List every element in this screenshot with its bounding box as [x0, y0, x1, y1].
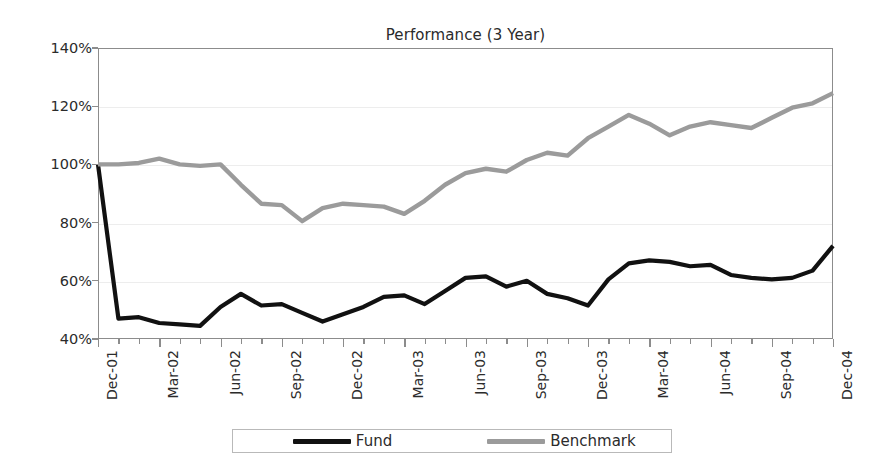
x-tick-minor [690, 339, 691, 344]
x-tick-minor [363, 339, 364, 344]
y-tick-label: 140% [28, 40, 92, 56]
x-tick-minor [261, 339, 262, 344]
gridline-80 [99, 224, 832, 225]
y-tick-label: 60% [28, 273, 92, 289]
x-tick-major [649, 339, 650, 347]
x-tick-major [833, 339, 834, 347]
plot-area [98, 48, 833, 339]
y-tick-mark [92, 222, 98, 223]
x-tick-minor [506, 339, 507, 344]
gridline-100 [99, 165, 832, 166]
y-tick-mark [92, 338, 98, 339]
x-tick-major [282, 339, 283, 347]
x-tick-major [772, 339, 773, 347]
y-tick-label: 80% [28, 215, 92, 231]
legend-entry-benchmark: Benchmark [452, 432, 671, 450]
y-tick-mark [92, 47, 98, 48]
x-tick-label: Jun-03 [472, 350, 488, 395]
x-tick-minor [139, 339, 140, 344]
y-axis: 40%60%80%100%120%140% [20, 0, 92, 473]
x-tick-minor [445, 339, 446, 344]
x-tick-label: Sep-04 [778, 350, 794, 399]
x-tick-label: Jun-02 [227, 350, 243, 395]
x-tick-minor [118, 339, 119, 344]
x-tick-minor [425, 339, 426, 344]
y-tick-mark [92, 280, 98, 281]
x-tick-minor [384, 339, 385, 344]
x-tick-major [159, 339, 160, 347]
x-tick-minor [670, 339, 671, 344]
x-tick-major [527, 339, 528, 347]
x-tick-minor [792, 339, 793, 344]
x-tick-label: Mar-03 [410, 350, 426, 398]
x-tick-major [588, 339, 589, 347]
x-tick-label: Sep-03 [533, 350, 549, 399]
x-tick-label: Dec-01 [104, 350, 120, 400]
x-tick-minor [302, 339, 303, 344]
x-tick-minor [323, 339, 324, 344]
y-tick-label: 100% [28, 156, 92, 172]
legend-swatch-fund [293, 439, 351, 444]
gridline-60 [99, 282, 832, 283]
x-tick-label: Sep-02 [288, 350, 304, 399]
legend-entry-fund: Fund [233, 432, 452, 450]
gridline-120 [99, 107, 832, 108]
y-tick-label: 40% [28, 331, 92, 347]
x-tick-major [221, 339, 222, 347]
x-tick-major [343, 339, 344, 347]
x-tick-minor [547, 339, 548, 344]
x-tick-minor [200, 339, 201, 344]
x-tick-label: Dec-03 [594, 350, 610, 400]
y-tick-mark [92, 164, 98, 165]
x-tick-minor [813, 339, 814, 344]
x-tick-label: Mar-02 [165, 350, 181, 398]
x-tick-minor [751, 339, 752, 344]
x-tick-minor [608, 339, 609, 344]
x-tick-minor [180, 339, 181, 344]
x-tick-minor [731, 339, 732, 344]
x-tick-minor [629, 339, 630, 344]
x-tick-major [98, 339, 99, 347]
chart-legend: Fund Benchmark [232, 429, 672, 453]
x-tick-major [404, 339, 405, 347]
x-tick-minor [568, 339, 569, 344]
performance-chart: Performance (3 Year) 40%60%80%100%120%14… [0, 0, 879, 473]
x-tick-label: Dec-04 [839, 350, 855, 400]
y-tick-mark [92, 106, 98, 107]
x-tick-major [711, 339, 712, 347]
x-tick-major [466, 339, 467, 347]
x-tick-label: Mar-04 [655, 350, 671, 398]
x-tick-label: Jun-04 [717, 350, 733, 395]
y-tick-label: 120% [28, 98, 92, 114]
x-tick-label: Dec-02 [349, 350, 365, 400]
legend-label-fund: Fund [356, 432, 392, 450]
legend-label-benchmark: Benchmark [550, 432, 635, 450]
chart-title: Performance (3 Year) [98, 26, 833, 44]
legend-swatch-benchmark [487, 439, 545, 444]
x-tick-minor [486, 339, 487, 344]
x-tick-minor [241, 339, 242, 344]
